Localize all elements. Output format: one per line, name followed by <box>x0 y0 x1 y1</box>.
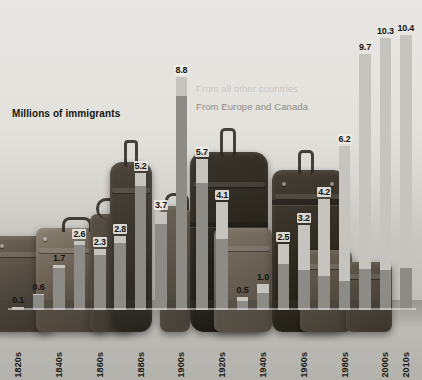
x-tick-1900s: 1900s <box>176 352 186 378</box>
bar-value-label-1980s: 6.2 <box>338 134 352 144</box>
bar-segment-europe-1980s <box>339 281 350 310</box>
bar-segment-other-1950s <box>278 244 289 264</box>
bar-1850s: 2.6 <box>74 241 85 310</box>
bar-segment-europe-1850s <box>74 245 85 310</box>
bar-segment-europe-1910s <box>196 183 207 310</box>
x-axis: 1820s1840s1860s1880s1900s1920s1940s1960s… <box>8 310 416 380</box>
bar-segment-europe-1860s <box>94 255 105 311</box>
bar-segment-europe-1880s <box>135 186 146 310</box>
x-tick-1960s: 1960s <box>299 352 309 378</box>
bar-value-label-2010s: 10.4 <box>397 23 414 33</box>
bar-segment-other-1890s <box>155 212 166 224</box>
bar-1840s: 1.7 <box>53 265 64 310</box>
x-tick-1920s: 1920s <box>217 352 227 378</box>
bar-value-label-1920s: 4.1 <box>215 190 229 200</box>
bar-value-label-1850s: 2.6 <box>72 229 86 239</box>
bar-segment-other-1960s <box>298 225 309 270</box>
x-tick-1820s: 1820s <box>13 352 23 378</box>
bar-segment-europe-2000s <box>380 270 391 310</box>
bar-value-label-1950s: 2.5 <box>276 232 290 242</box>
bar-value-label-1880s: 5.2 <box>134 161 148 171</box>
bar-segment-europe-1990s <box>359 269 370 310</box>
x-tick-1980s: 1980s <box>340 352 350 378</box>
bar-segment-other-1870s <box>114 236 125 243</box>
bar-value-label-1940s: 1.0 <box>257 272 269 282</box>
bar-1970s: 4.2 <box>318 199 329 310</box>
chart-screenshot: Millions of immigrants From all other co… <box>0 0 422 380</box>
bar-1960s: 3.2 <box>298 225 309 310</box>
bar-1920s: 4.1 <box>216 202 227 310</box>
bar-segment-europe-1970s <box>318 276 329 310</box>
bar-value-label-2000s: 10.3 <box>377 26 394 36</box>
bar-segment-other-1990s <box>359 54 370 269</box>
bar-segment-other-2010s <box>400 35 411 268</box>
bar-segment-other-1880s <box>135 173 146 186</box>
bar-segment-europe-1870s <box>114 243 125 310</box>
x-tick-1860s: 1860s <box>95 352 105 378</box>
bar-segment-europe-1890s <box>155 224 166 310</box>
bar-1980s: 6.2 <box>339 146 350 310</box>
bar-segment-other-1900s <box>176 77 187 96</box>
bar-1940s: 1.0 <box>257 284 268 310</box>
bar-segment-europe-1840s <box>53 268 64 310</box>
chart: Millions of immigrants From all other co… <box>0 0 422 380</box>
bar-value-label-1890s: 3.7 <box>154 200 168 210</box>
bar-value-label-1840s: 1.7 <box>53 253 65 263</box>
bar-segment-europe-1920s <box>216 239 227 310</box>
bar-value-label-1930s: 0.5 <box>237 285 249 295</box>
plot-area: 0.10.61.72.62.32.85.23.78.85.74.10.51.02… <box>8 14 416 310</box>
bar-2010s: 10.4 <box>400 35 411 310</box>
bar-segment-europe-2010s <box>400 268 411 310</box>
bar-value-label-1870s: 2.8 <box>113 224 127 234</box>
bar-value-label-1910s: 5.7 <box>195 147 209 157</box>
bar-1950s: 2.5 <box>278 244 289 310</box>
x-tick-1940s: 1940s <box>258 352 268 378</box>
x-tick-1840s: 1840s <box>54 352 64 378</box>
bar-segment-other-2000s <box>380 38 391 271</box>
bar-1990s: 9.7 <box>359 54 370 310</box>
bar-value-label-1860s: 2.3 <box>93 237 107 247</box>
bar-value-label-1960s: 3.2 <box>297 213 311 223</box>
bar-1870s: 2.8 <box>114 236 125 310</box>
bar-value-label-1820s: 0.1 <box>12 295 24 305</box>
bar-1890s: 3.7 <box>155 212 166 310</box>
bar-segment-europe-1900s <box>176 96 187 310</box>
bar-1880s: 5.2 <box>135 173 146 310</box>
bar-segment-other-1970s <box>318 199 329 276</box>
bar-segment-other-1940s <box>257 284 268 293</box>
x-tick-2000s: 2000s <box>380 352 390 378</box>
bar-value-label-1970s: 4.2 <box>317 187 331 197</box>
bar-value-label-1900s: 8.8 <box>174 65 188 75</box>
bar-segment-other-1980s <box>339 146 350 281</box>
bar-segment-other-1910s <box>196 159 207 183</box>
x-tick-2010s: 2010s <box>401 352 411 378</box>
bar-1860s: 2.3 <box>94 249 105 310</box>
bar-value-label-1990s: 9.7 <box>359 42 371 52</box>
bar-1900s: 8.8 <box>176 77 187 310</box>
bar-segment-europe-1960s <box>298 270 309 310</box>
bar-segment-europe-1950s <box>278 264 289 310</box>
bar-segment-other-1920s <box>216 202 227 239</box>
bar-2000s: 10.3 <box>380 38 391 310</box>
x-tick-1880s: 1880s <box>136 352 146 378</box>
bar-value-label-1830s: 0.6 <box>33 282 45 292</box>
bar-1910s: 5.7 <box>196 159 207 310</box>
